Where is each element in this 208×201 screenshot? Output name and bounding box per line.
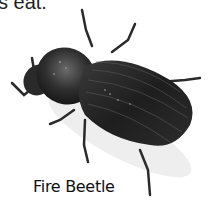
figure-caption: Fire Beetle <box>33 177 115 196</box>
fire-beetle-illustration <box>0 0 208 201</box>
